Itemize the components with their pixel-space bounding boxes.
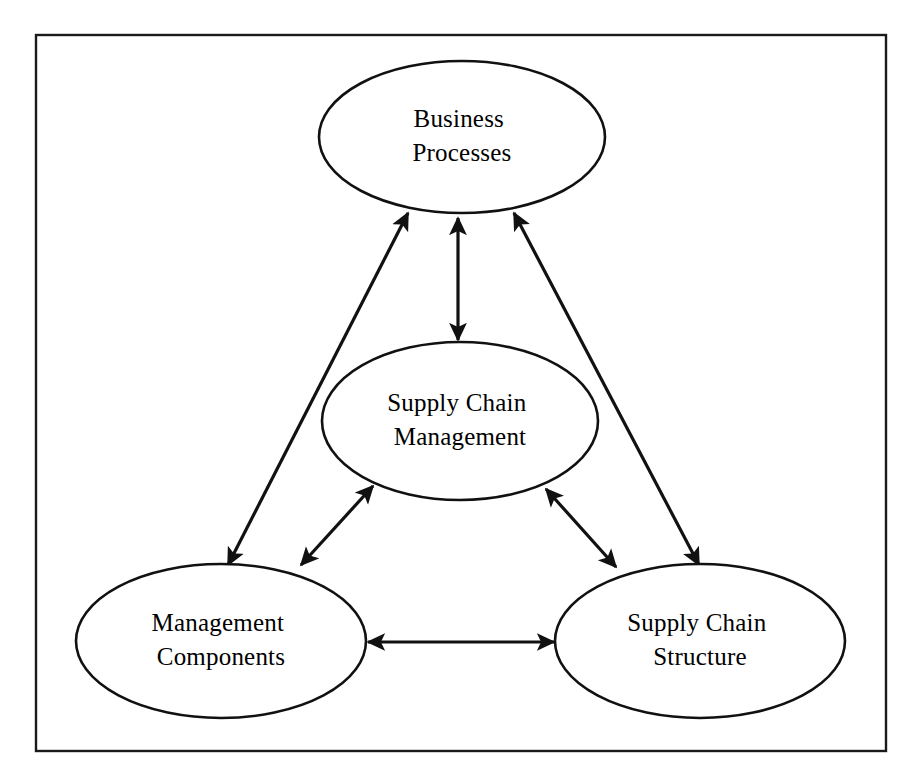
supply-chain-management-diagram: Business Processes Supply Chain Manageme… xyxy=(0,0,918,780)
node-business-processes[interactable]: Business Processes xyxy=(319,61,605,213)
connector-supply-chain-management-supply-chain-structure xyxy=(546,489,616,567)
node-label-line1: Supply Chain xyxy=(387,389,527,416)
node-label-line2: Components xyxy=(157,643,285,670)
node-ellipse-management-components[interactable] xyxy=(76,564,366,718)
node-ellipse-supply-chain-management[interactable] xyxy=(322,342,598,500)
node-supply-chain-structure[interactable]: Supply Chain Structure xyxy=(555,564,845,718)
node-ellipse-business-processes[interactable] xyxy=(319,61,605,213)
node-label-line2: Structure xyxy=(653,643,746,670)
node-label-line1: Supply Chain xyxy=(627,609,767,636)
node-management-components[interactable]: Management Components xyxy=(76,564,366,718)
connector-supply-chain-management-management-components xyxy=(301,486,373,565)
node-label-line2: Processes xyxy=(412,139,511,166)
figure-root: Business Processes Supply Chain Manageme… xyxy=(0,0,918,780)
node-label-line1: Business xyxy=(414,105,505,132)
node-ellipse-supply-chain-structure[interactable] xyxy=(555,564,845,718)
node-label-line1: Management xyxy=(152,609,285,636)
node-label-line2: Management xyxy=(394,423,527,450)
node-supply-chain-management[interactable]: Supply Chain Management xyxy=(322,342,598,500)
